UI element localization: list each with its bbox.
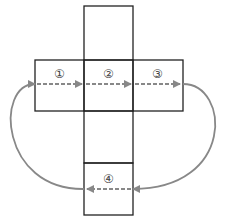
label-face-4: ④ <box>103 172 114 186</box>
cube-net-diagram: ① ② ③ ④ <box>0 0 227 220</box>
curve-right <box>133 84 215 189</box>
label-face-2: ② <box>103 67 114 81</box>
label-face-3: ③ <box>152 67 163 81</box>
bottom-face <box>84 111 133 163</box>
top-face <box>84 6 133 60</box>
curve-left <box>11 84 84 189</box>
label-face-1: ① <box>54 67 65 81</box>
